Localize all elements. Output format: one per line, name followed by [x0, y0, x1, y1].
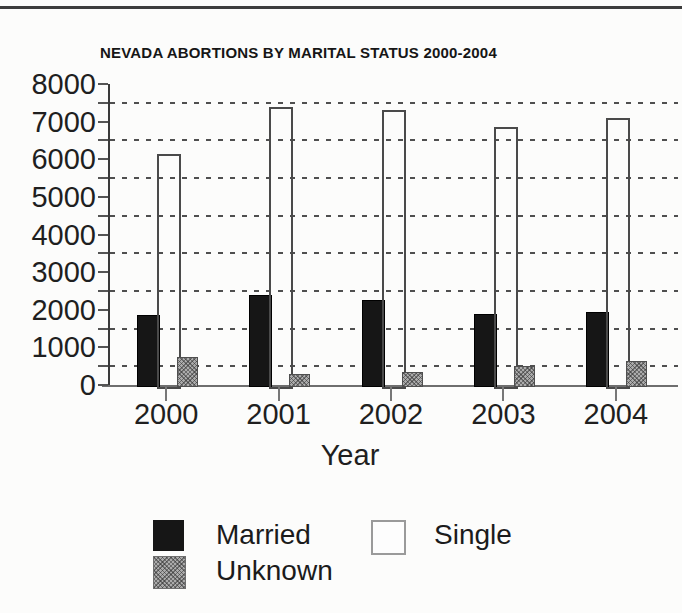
legend-label-single: Single	[434, 519, 512, 551]
legend-swatch-unknown	[153, 556, 186, 589]
y-axis-tick-label-2000: 2000	[6, 295, 96, 325]
legend-swatch-single	[371, 520, 406, 555]
bar-single-2002	[382, 110, 406, 389]
bar-unknown-2000	[177, 357, 198, 387]
y-tick-3500	[98, 252, 108, 254]
y-tick-4500	[98, 215, 108, 217]
y-axis-tick-label-3000: 3000	[6, 257, 96, 287]
y-axis-tick-label-5000: 5000	[6, 182, 96, 212]
y-axis-tick-label-7000: 7000	[6, 107, 96, 137]
y-tick-0	[98, 384, 108, 386]
legend-label-married: Married	[216, 519, 311, 551]
bar-unknown-2004	[626, 361, 647, 387]
bar-unknown-2002	[402, 372, 423, 387]
y-tick-5500	[98, 177, 108, 179]
y-axis-tick-label-8000: 8000	[6, 69, 96, 99]
y-axis-line	[108, 84, 110, 387]
legend-swatch-married	[153, 520, 184, 551]
bar-single-2004	[606, 118, 630, 389]
x-axis-tick-label-2001: 2001	[231, 398, 327, 430]
x-axis-tick-label-2004: 2004	[568, 398, 664, 430]
y-axis-tick-label-6000: 6000	[6, 144, 96, 174]
y-tick-1500	[98, 328, 108, 330]
y-tick-2000	[98, 309, 108, 311]
x-axis-tick-label-2003: 2003	[455, 398, 551, 430]
y-tick-3000	[98, 271, 108, 273]
x-axis-tick-label-2000: 2000	[118, 398, 214, 430]
bar-unknown-2001	[289, 374, 310, 387]
x-axis-tick-label-2002: 2002	[343, 398, 439, 430]
bar-single-2000	[157, 154, 181, 389]
page: NEVADA ABORTIONS BY MARITAL STATUS 2000-…	[0, 0, 682, 613]
chart-canvas: 0100020003000400050006000700080002000200…	[0, 0, 682, 613]
y-tick-1000	[98, 346, 108, 348]
y-tick-2500	[98, 290, 108, 292]
y-tick-5000	[98, 196, 108, 198]
x-axis-title: Year	[290, 440, 410, 470]
y-tick-7000	[98, 121, 108, 123]
gridline-7500	[110, 102, 678, 104]
y-tick-6000	[98, 158, 108, 160]
y-tick-500	[98, 365, 108, 367]
bar-single-2001	[269, 107, 293, 389]
legend-label-unknown: Unknown	[216, 555, 333, 587]
y-tick-7500	[98, 102, 108, 104]
bar-single-2003	[494, 127, 518, 389]
y-axis-tick-label-0: 0	[6, 370, 96, 400]
bar-unknown-2003	[514, 366, 535, 387]
y-tick-4000	[98, 234, 108, 236]
y-tick-6500	[98, 139, 108, 141]
y-axis-tick-label-1000: 1000	[6, 332, 96, 362]
y-axis-tick-label-4000: 4000	[6, 220, 96, 250]
y-tick-8000	[98, 83, 108, 85]
